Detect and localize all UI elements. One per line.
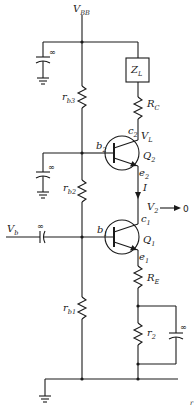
current-arrow-icon xyxy=(135,192,141,199)
emitter-bypass-capacitor: ∞ xyxy=(169,306,187,364)
transistor-q2 xyxy=(82,136,139,170)
junction-dot xyxy=(136,377,139,380)
resistor-re xyxy=(134,266,142,288)
svg-text:Vb: Vb xyxy=(7,223,18,237)
svg-text:RE: RE xyxy=(146,272,160,286)
current-label: I xyxy=(142,182,148,193)
v2-annotation: V2 0 xyxy=(147,201,189,215)
svg-text:∞: ∞ xyxy=(48,163,55,172)
svg-text:b2: b2 xyxy=(96,140,107,154)
svg-text:Q2: Q2 xyxy=(143,150,155,164)
svg-text:∞: ∞ xyxy=(180,323,187,332)
q2-labels: b2 c2 VL Q2 e2 xyxy=(96,125,155,181)
svg-text:∞: ∞ xyxy=(37,222,44,231)
circuit-diagram: VBB ∞ rb3 ZL RC b2 xyxy=(0,0,195,407)
svg-text:r2: r2 xyxy=(147,327,156,341)
ground-icon xyxy=(39,379,51,402)
svg-text:∞: ∞ xyxy=(49,48,56,57)
svg-text:rb2: rb2 xyxy=(63,182,76,196)
resistor-rc xyxy=(134,97,142,119)
svg-text:RC: RC xyxy=(146,98,160,112)
svg-text:VBB: VBB xyxy=(73,3,90,17)
bypass-capacitor-top: ∞ xyxy=(36,42,56,84)
rc-label: RC xyxy=(146,98,160,112)
svg-text:Q1: Q1 xyxy=(143,234,155,248)
svg-text:e2: e2 xyxy=(139,167,149,181)
resistor-r2 xyxy=(134,323,142,345)
svg-text:0: 0 xyxy=(183,204,189,214)
rb3-label: rb3 xyxy=(62,91,75,105)
r2-label: r2 xyxy=(147,327,156,341)
corner-mark: r xyxy=(190,399,194,407)
arrow-right-icon xyxy=(174,205,181,211)
supply-label: VBB xyxy=(73,3,90,17)
svg-text:e1: e1 xyxy=(139,251,149,265)
svg-text:V2: V2 xyxy=(147,201,158,215)
svg-text:c1: c1 xyxy=(141,213,151,227)
svg-text:b1: b1 xyxy=(97,224,108,238)
resistor-rb3 xyxy=(78,86,86,108)
svg-text:VL: VL xyxy=(141,130,153,144)
resistor-rb1 xyxy=(78,297,86,319)
svg-text:rb1: rb1 xyxy=(63,302,76,316)
svg-text:c2: c2 xyxy=(128,125,138,139)
resistor-rb2 xyxy=(78,180,86,202)
re-label: RE xyxy=(146,272,160,286)
svg-text:rb3: rb3 xyxy=(62,91,75,105)
rb1-label: rb1 xyxy=(63,302,76,316)
zl-label: ZL xyxy=(130,64,142,78)
junction-dot xyxy=(80,377,83,380)
svg-text:ZL: ZL xyxy=(130,64,142,78)
rb2-label: rb2 xyxy=(63,182,76,196)
